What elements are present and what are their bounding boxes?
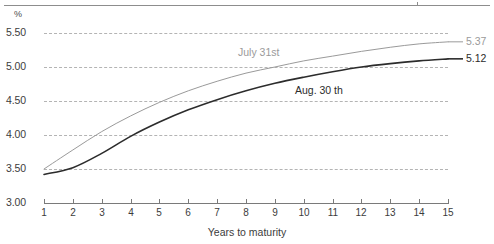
x-tick-label: 11 [324, 207, 342, 218]
x-tick-mark [448, 199, 449, 204]
series-line-aug-30-th [44, 59, 448, 175]
series-label-aug-30th: Aug. 30 th [295, 84, 343, 96]
x-axis-title: Years to maturity [0, 226, 494, 238]
x-tick-mark [246, 199, 247, 204]
x-tick-mark [361, 199, 362, 204]
x-tick-label: 4 [122, 207, 140, 218]
x-tick-label: 12 [352, 207, 370, 218]
x-tick-mark [217, 199, 218, 204]
series-line-july-31st [44, 42, 448, 169]
x-tick-mark [131, 199, 132, 204]
x-tick-label: 5 [150, 207, 168, 218]
x-tick-mark [73, 199, 74, 204]
x-tick-label: 14 [410, 207, 428, 218]
x-tick-mark [419, 199, 420, 204]
x-tick-mark [159, 199, 160, 204]
x-tick-mark [188, 199, 189, 204]
x-tick-mark [44, 199, 45, 204]
x-tick-mark [275, 199, 276, 204]
x-tick-label: 15 [439, 207, 457, 218]
x-tick-label: 8 [237, 207, 255, 218]
x-tick-label: 3 [93, 207, 111, 218]
x-tick-label: 13 [381, 207, 399, 218]
plot-area: % 5.505.004.504.003.503.00 1234567891011… [0, 0, 494, 244]
x-tick-mark [390, 199, 391, 204]
x-tick-label: 9 [266, 207, 284, 218]
series-end-value-aug-30th: 5.12 [466, 52, 486, 64]
series-end-value-july-31st: 5.37 [466, 35, 486, 47]
x-tick-mark [102, 199, 103, 204]
yield-curve-chart: % 5.505.004.504.003.503.00 1234567891011… [0, 0, 494, 244]
x-tick-label: 10 [295, 207, 313, 218]
x-tick-label: 2 [64, 207, 82, 218]
x-tick-mark [333, 199, 334, 204]
x-tick-label: 1 [35, 207, 53, 218]
x-tick-label: 6 [179, 207, 197, 218]
x-tick-label: 7 [208, 207, 226, 218]
series-label-july-31st: July 31st [238, 46, 279, 58]
x-tick-mark [304, 199, 305, 204]
